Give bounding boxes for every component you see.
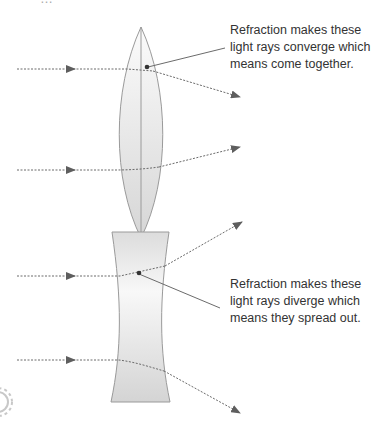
ray-arrowhead-in-4 bbox=[66, 356, 76, 364]
convex-caption-line-1: Refraction makes these bbox=[230, 22, 384, 39]
ray-arrowhead-in-1 bbox=[66, 65, 76, 73]
convex-caption: Refraction makes these light rays conver… bbox=[230, 22, 384, 73]
concave-caption-line-2: light rays diverge which bbox=[230, 293, 384, 310]
ray-arrowhead-in-2 bbox=[66, 166, 76, 174]
concave-caption: Refraction makes these light rays diverg… bbox=[230, 276, 384, 327]
concave-lens bbox=[111, 232, 170, 402]
concave-caption-line-3: means they spread out. bbox=[230, 310, 384, 327]
concave-caption-line-1: Refraction makes these bbox=[230, 276, 384, 293]
convex-caption-line-3: means come together. bbox=[230, 56, 384, 73]
convex-caption-line-2: light rays converge which bbox=[230, 39, 384, 56]
gear-fragment-icon bbox=[0, 388, 12, 416]
leader-dot-bottom bbox=[137, 271, 142, 276]
leader-line-top bbox=[148, 48, 225, 67]
leader-dot-top bbox=[145, 65, 150, 70]
ray-arrowhead-in-3 bbox=[66, 272, 76, 280]
